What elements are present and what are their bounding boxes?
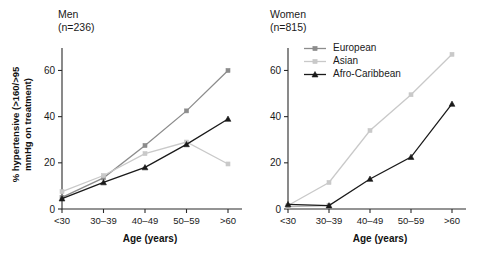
data-point: [60, 190, 64, 194]
data-point: [225, 116, 231, 121]
y-tick-label: 60: [270, 65, 282, 76]
data-point: [226, 162, 230, 166]
legend-item-afro-caribbean[interactable]: Afro-Caribbean: [302, 68, 422, 81]
y-tick-label: 40: [44, 111, 56, 122]
legend-swatch-square-icon: [302, 55, 328, 68]
y-tick-label: 40: [270, 111, 282, 122]
y-tick-label: 0: [275, 204, 281, 215]
data-point: [185, 109, 189, 113]
plot-area-men: 0204060<3030–3940–4950–59>60: [0, 0, 250, 255]
legend-label: Afro-Caribbean: [333, 68, 401, 79]
y-tick-label: 60: [44, 65, 56, 76]
x-tick-label: 50–59: [173, 215, 199, 226]
x-tick-label: 30–39: [316, 215, 342, 226]
legend-swatch-triangle-icon: [302, 68, 328, 81]
series-line-afro-caribbean: [288, 104, 452, 206]
data-point: [142, 165, 148, 170]
y-tick-label: 20: [270, 157, 282, 168]
x-axis-label-men: Age (years): [55, 233, 245, 244]
legend-item-asian[interactable]: Asian: [302, 55, 422, 68]
x-tick-label: 30–39: [90, 215, 116, 226]
legend-swatch-square-icon: [302, 42, 328, 55]
data-point: [143, 152, 147, 156]
x-tick-label: >60: [444, 215, 460, 226]
x-tick-label: >60: [220, 215, 236, 226]
x-tick-label: 50–59: [398, 215, 424, 226]
y-tick-label: 0: [49, 204, 55, 215]
data-point: [450, 52, 454, 56]
panel-women: Women(n=815) 0204060<3030–3940–4950–59>6…: [250, 0, 503, 255]
data-point: [367, 176, 373, 181]
data-point: [368, 129, 372, 133]
panel-men: Men(n=236) % hypertensive (>160/>95mmHg …: [0, 0, 250, 255]
data-point: [409, 93, 413, 97]
data-point: [102, 174, 106, 178]
plot-area-women: 0204060<3030–3940–4950–59>60: [250, 0, 503, 255]
legend-label: European: [333, 42, 376, 53]
data-point: [449, 101, 455, 106]
data-point: [143, 144, 147, 148]
x-tick-label: <30: [54, 215, 70, 226]
x-tick-label: <30: [280, 215, 296, 226]
series-line-afro-caribbean: [62, 119, 228, 199]
x-tick-label: 40–49: [357, 215, 383, 226]
data-point: [327, 180, 331, 184]
legend-item-european[interactable]: European: [302, 42, 422, 55]
x-tick-label: 40–49: [132, 215, 158, 226]
figure-root: Men(n=236) % hypertensive (>160/>95mmHg …: [0, 0, 503, 255]
x-axis-label-women: Age (years): [280, 233, 480, 244]
legend-label: Asian: [333, 55, 358, 66]
y-tick-label: 20: [44, 157, 56, 168]
data-point: [226, 68, 230, 72]
